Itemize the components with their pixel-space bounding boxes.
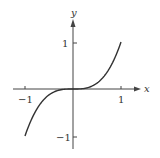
y-axis-label: y (70, 7, 77, 18)
y-tick-label-pos1: 1 (62, 38, 68, 49)
cubic-function-plot: y x −1 1 1 −1 (0, 0, 160, 158)
x-tick-label-neg1: −1 (18, 94, 33, 105)
y-tick-label-neg1: −1 (56, 132, 71, 143)
y-axis-arrow-icon (71, 19, 76, 27)
x-axis-arrow-icon (134, 87, 141, 92)
x-tick-label-pos1: 1 (118, 94, 124, 105)
x-axis-label: x (144, 83, 150, 94)
